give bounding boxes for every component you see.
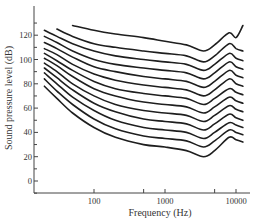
- x-tick-label: 100: [88, 196, 101, 206]
- y-tick-label: 0: [28, 176, 32, 186]
- x-tick-label: 1000: [157, 196, 174, 206]
- x-tick-label: 10000: [225, 196, 246, 206]
- y-tick-label: 120: [19, 30, 32, 40]
- y-tick-label: 80: [24, 79, 33, 89]
- y-tick-label: 100: [19, 55, 32, 65]
- y-axis-title: Sound pressure level (dB): [3, 46, 15, 150]
- y-tick-label: 40: [24, 127, 33, 137]
- loudness-contour: [44, 86, 243, 157]
- y-tick-label: 60: [24, 103, 33, 113]
- loudness-contour: [44, 53, 243, 104]
- loudness-contour: [44, 79, 243, 147]
- loudness-contour: [44, 49, 243, 96]
- loudness-contour: [73, 26, 243, 52]
- x-axis-title: Frequency (Hz): [128, 207, 191, 219]
- equal-loudness-chart: 020406080100120100100010000 Sound pressu…: [0, 0, 261, 223]
- curves: [44, 26, 243, 157]
- y-tick-label: 20: [24, 152, 33, 162]
